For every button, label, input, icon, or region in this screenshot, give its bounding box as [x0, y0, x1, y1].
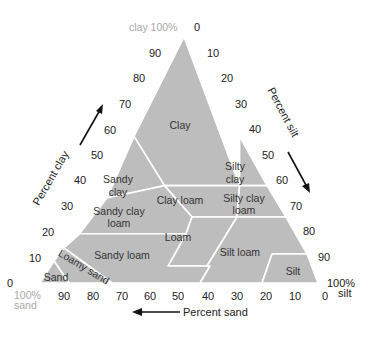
- svg-text:40: 40: [74, 174, 86, 186]
- label-clay: Clay: [169, 119, 191, 131]
- label-loam: Loam: [165, 231, 192, 243]
- corner-silt-label-2: silt: [338, 287, 351, 299]
- svg-text:90: 90: [58, 290, 70, 302]
- sand-arrow-icon: [132, 308, 180, 316]
- svg-text:60: 60: [276, 174, 288, 186]
- svg-text:10: 10: [289, 290, 301, 302]
- sand-axis-ticks: 90 80 70 60 50 40 30 20 10 0: [58, 290, 328, 302]
- svg-text:0: 0: [194, 21, 200, 33]
- svg-text:80: 80: [133, 72, 145, 84]
- label-sand: Sand: [44, 271, 69, 283]
- silt-axis-title: Percent silt: [265, 85, 301, 139]
- svg-text:30: 30: [231, 290, 243, 302]
- svg-text:20: 20: [260, 290, 272, 302]
- corner-clay-label: clay 100%: [129, 21, 177, 33]
- soil-texture-triangle: Clay Sandyclay Siltyclay Clay loam Silty…: [0, 0, 368, 338]
- svg-text:40: 40: [202, 290, 214, 302]
- svg-text:40: 40: [249, 123, 261, 135]
- label-clay-loam: Clay loam: [157, 194, 204, 206]
- svg-text:20: 20: [42, 226, 54, 238]
- svg-text:90: 90: [149, 47, 161, 59]
- label-silt: Silt: [286, 265, 301, 277]
- svg-text:80: 80: [303, 225, 315, 237]
- svg-text:30: 30: [235, 98, 247, 110]
- svg-text:60: 60: [144, 290, 156, 302]
- label-sandy-loam: Sandy loam: [94, 249, 150, 261]
- svg-text:80: 80: [87, 290, 99, 302]
- label-silt-loam: Silt loam: [220, 246, 261, 258]
- silt-arrow-icon: [288, 152, 310, 193]
- svg-text:10: 10: [207, 47, 219, 59]
- svg-text:50: 50: [172, 290, 184, 302]
- svg-text:50: 50: [91, 149, 103, 161]
- svg-text:0: 0: [322, 290, 328, 302]
- svg-text:90: 90: [318, 251, 330, 263]
- svg-text:20: 20: [221, 72, 233, 84]
- clay-axis-title: Percent clay: [30, 148, 71, 207]
- svg-text:0: 0: [7, 277, 13, 289]
- corner-sand-label-2: sand: [14, 299, 37, 311]
- svg-text:10: 10: [29, 252, 41, 264]
- clay-arrow-icon: [80, 104, 103, 145]
- svg-text:30: 30: [61, 200, 73, 212]
- svg-text:50: 50: [262, 149, 274, 161]
- svg-text:60: 60: [104, 124, 116, 136]
- label-silty-clay: Siltyclay: [225, 160, 246, 185]
- svg-text:70: 70: [119, 98, 131, 110]
- svg-text:70: 70: [116, 290, 128, 302]
- svg-text:70: 70: [290, 200, 302, 212]
- sand-axis-title: Percent sand: [183, 306, 248, 318]
